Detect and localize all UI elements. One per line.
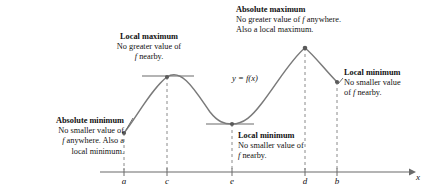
point-marker-d [303, 46, 308, 51]
annotation-local-maximum-line-1: No greater value of [93, 42, 205, 52]
annotation-absolute-minimum-line-2: f anywhere. Also a [2, 136, 124, 146]
annotation-local-minimum-center-title: Local minimum [238, 131, 358, 141]
annotation-absolute-minimum: Absolute minimum No smaller value of f a… [2, 116, 124, 157]
axis-x-label: x [416, 172, 420, 182]
curve-equation-label: y = f(x) [232, 73, 258, 83]
annotation-local-minimum-right: Local minimum No smaller value of f near… [344, 68, 426, 99]
leader-line-abs-min [126, 118, 133, 130]
annotation-local-maximum: Local maximum No greater value of f near… [93, 32, 205, 63]
annotation-local-minimum-center-line-1: No smaller value of [238, 141, 358, 151]
axis-tick-label-c: c [165, 176, 169, 186]
axis-tick-label-d: d [303, 176, 308, 186]
point-marker-b [335, 80, 339, 84]
annotation-local-minimum-right-title: Local minimum [344, 68, 426, 78]
annotation-absolute-minimum-line-1: No smaller value of [2, 126, 124, 136]
annotation-absolute-maximum-line-1: No greater value of f anywhere. [236, 15, 396, 25]
point-marker-c [165, 75, 169, 79]
axis-tick-label-b: b [335, 176, 340, 186]
tangent-lines [142, 76, 254, 124]
annotation-local-maximum-line-2: f nearby. [93, 52, 205, 62]
axis-tick-label-a: a [122, 176, 127, 186]
point-marker-e [230, 122, 234, 126]
x-axis [100, 169, 416, 176]
annotation-local-minimum-center-line-2: f nearby. [238, 151, 358, 161]
annotation-local-maximum-title: Local maximum [93, 32, 205, 42]
figure-extreme-values: Absolute minimum No smaller value of f a… [0, 0, 427, 195]
axis-tick-label-e: e [230, 176, 234, 186]
annotation-local-minimum-center: Local minimum No smaller value of f near… [238, 131, 358, 162]
annotation-local-minimum-right-line-2: of f nearby. [344, 88, 426, 98]
annotation-absolute-minimum-line-3: local minimum. [2, 147, 124, 157]
annotation-local-minimum-right-line-1: No smaller value [344, 78, 426, 88]
annotation-absolute-maximum: Absolute maximum No greater value of f a… [236, 5, 396, 36]
annotation-absolute-maximum-title: Absolute maximum [236, 5, 396, 15]
annotation-absolute-minimum-title: Absolute minimum [2, 116, 124, 126]
annotation-absolute-maximum-line-2: Also a local maximum. [236, 25, 396, 35]
